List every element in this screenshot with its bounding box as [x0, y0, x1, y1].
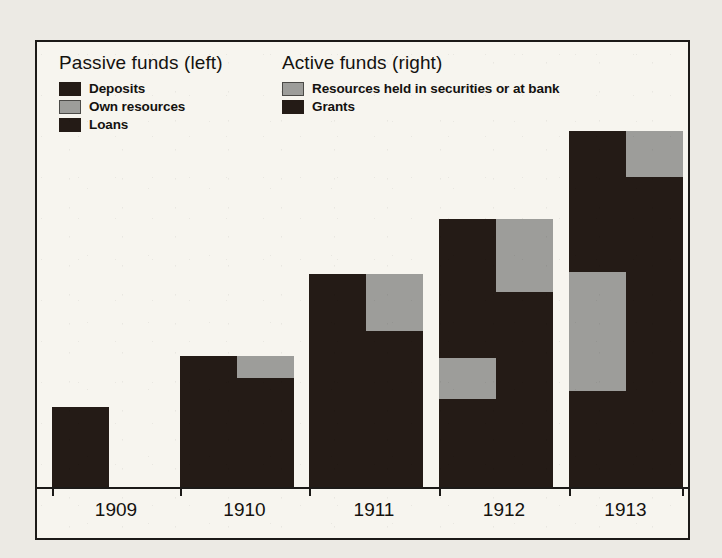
- x-axis-label-1911: 1911: [354, 499, 395, 521]
- bar-segment-1911-right-gray: [366, 274, 423, 331]
- x-axis-tick-4: [569, 487, 571, 496]
- bar-segment-1913-left-gray: [569, 272, 626, 391]
- bar-segment-1910-left-dark: [180, 356, 237, 487]
- bar-segment-1912-right-gray: [496, 219, 553, 292]
- bar-segment-1912-left-dark: [439, 219, 496, 358]
- bar-1909-left: [52, 407, 109, 487]
- x-axis-tick-2: [309, 487, 311, 496]
- bar-segment-1913-right-dark: [626, 177, 683, 487]
- bar-1910-right: [237, 356, 294, 487]
- bar-1912-left: [439, 219, 496, 487]
- x-axis-tick-0: [52, 487, 54, 496]
- bar-segment-1911-left-dark: [309, 274, 366, 487]
- bar-segment-1911-right-dark: [366, 331, 423, 487]
- x-axis-tick-3: [439, 487, 441, 496]
- x-axis-label-1912: 1912: [483, 499, 525, 521]
- bar-1913-right: [626, 131, 683, 487]
- bar-segment-1909-left-dark: [52, 407, 109, 487]
- x-axis-label-1910: 1910: [223, 499, 265, 521]
- bar-1910-left: [180, 356, 237, 487]
- chart-figure: Passive funds (left) Deposits Own resour…: [0, 0, 722, 558]
- bar-1911-left: [309, 274, 366, 487]
- bar-segment-1910-right-dark: [237, 378, 294, 487]
- x-axis-tick-1: [180, 487, 182, 496]
- plot-area: 19091910191119121913: [37, 42, 688, 538]
- bar-segment-1912-left-gray: [439, 358, 496, 399]
- chart-plate: Passive funds (left) Deposits Own resour…: [35, 40, 690, 540]
- x-axis-line: [37, 487, 688, 489]
- bar-segment-1910-right-gray: [237, 356, 294, 378]
- bar-segment-1913-left-dark: [569, 391, 626, 487]
- bar-segment-1913-left-dark: [569, 131, 626, 272]
- bar-1911-right: [366, 274, 423, 487]
- x-axis-label-1909: 1909: [95, 499, 137, 521]
- bar-segment-1912-right-dark: [496, 292, 553, 487]
- bar-segment-1913-right-gray: [626, 131, 683, 177]
- bar-segment-1912-left-dark: [439, 399, 496, 487]
- bar-1912-right: [496, 219, 553, 487]
- bar-1913-left: [569, 131, 626, 487]
- x-axis-tick-5: [682, 487, 684, 496]
- x-axis-label-1913: 1913: [604, 499, 646, 521]
